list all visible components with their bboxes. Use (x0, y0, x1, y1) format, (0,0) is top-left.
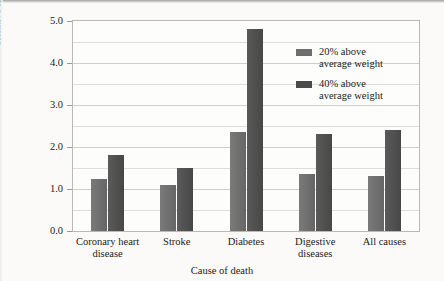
bar-series40 (108, 155, 124, 231)
bar-series40 (247, 29, 263, 231)
y-axis-tick (67, 147, 72, 148)
legend-item: 20% above average weight (296, 46, 383, 69)
y-axis-tick-label: 1.0 (50, 184, 63, 194)
legend-swatch-icon (296, 49, 312, 56)
y-axis-tick-label: 4.0 (50, 58, 63, 68)
y-axis-tick (67, 21, 72, 22)
y-axis-tick-label: 3.0 (50, 100, 63, 110)
x-axis-title: Cause of death (0, 265, 444, 276)
y-axis-tick (67, 231, 72, 232)
bar-series40 (177, 168, 193, 231)
legend-item-label: 40% above average weight (319, 78, 383, 101)
y-axis-tick (67, 63, 72, 64)
y-axis-tick-label: 0.0 (50, 226, 63, 236)
bar-series20 (91, 179, 107, 232)
y-axis-tick-label: 5.0 (50, 16, 63, 26)
bar-series20 (160, 185, 176, 231)
chart-page: 0.01.02.03.04.05.0 Relative risk (1.0 = … (0, 0, 444, 281)
bar-series40 (385, 130, 401, 231)
bar-series20 (230, 132, 246, 231)
legend: 20% above average weight40% above averag… (296, 46, 383, 110)
x-axis-tick-label: All causes (339, 236, 429, 248)
legend-item: 40% above average weight (296, 78, 383, 101)
y-axis-title: Relative risk (1.0 = normal) (0, 0, 2, 45)
scan-edge-artifact-top (0, 0, 444, 3)
legend-item-label: 20% above average weight (319, 46, 383, 69)
y-axis-tick-label: 2.0 (50, 142, 63, 152)
bar-series40 (316, 134, 332, 231)
y-axis-tick (67, 189, 72, 190)
legend-swatch-icon (296, 81, 312, 88)
bar-series20 (299, 174, 315, 231)
bar-series20 (368, 176, 384, 231)
y-axis-tick (67, 105, 72, 106)
